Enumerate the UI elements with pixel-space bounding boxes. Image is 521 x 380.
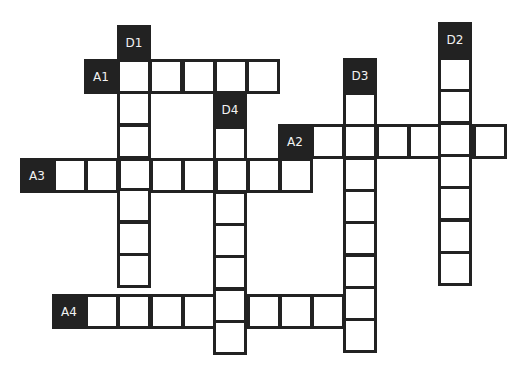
answer-cell-d4-6[interactable] bbox=[213, 288, 247, 323]
answer-cell-d2-2[interactable] bbox=[438, 89, 472, 124]
answer-cell-a1-5[interactable] bbox=[246, 59, 280, 94]
answer-cell-a1-2[interactable] bbox=[149, 59, 183, 94]
clue-label-a3: A3 bbox=[20, 158, 54, 193]
answer-cell-d2-6[interactable] bbox=[438, 219, 472, 254]
answer-cell-d3-3[interactable] bbox=[343, 157, 377, 192]
answer-cell-d3-1[interactable] bbox=[343, 92, 377, 127]
answer-cell-a4-8[interactable] bbox=[311, 294, 345, 329]
answer-cell-d2-1[interactable] bbox=[438, 57, 472, 92]
answer-cell-a4-4[interactable] bbox=[182, 294, 216, 329]
answer-cell-a2-2[interactable] bbox=[343, 124, 377, 159]
answer-cell-a1-1[interactable] bbox=[117, 59, 151, 94]
answer-cell-a1-4[interactable] bbox=[214, 59, 248, 94]
answer-cell-d1-7[interactable] bbox=[117, 253, 151, 288]
answer-cell-a2-4[interactable] bbox=[408, 124, 442, 159]
answer-cell-a2-3[interactable] bbox=[376, 124, 410, 159]
answer-cell-d4-1[interactable] bbox=[213, 126, 247, 161]
answer-cell-d1-3[interactable] bbox=[117, 124, 151, 159]
crossword-grid: D1A1D4D3D2A2A3A4 bbox=[0, 0, 521, 380]
answer-cell-a3-6[interactable] bbox=[215, 158, 249, 193]
answer-cell-a4-2[interactable] bbox=[117, 294, 151, 329]
answer-cell-d3-4[interactable] bbox=[343, 189, 377, 224]
answer-cell-d4-3[interactable] bbox=[213, 191, 247, 226]
clue-label-a2: A2 bbox=[278, 124, 312, 159]
answer-cell-d4-5[interactable] bbox=[213, 255, 247, 290]
answer-cell-d4-4[interactable] bbox=[213, 223, 247, 258]
answer-cell-a4-6[interactable] bbox=[247, 294, 281, 329]
clue-label-a4: A4 bbox=[52, 294, 86, 329]
answer-cell-a4-1[interactable] bbox=[85, 294, 119, 329]
answer-cell-d3-6[interactable] bbox=[343, 254, 377, 289]
answer-cell-a4-7[interactable] bbox=[279, 294, 313, 329]
clue-label-a1: A1 bbox=[84, 59, 118, 94]
answer-cell-a3-5[interactable] bbox=[182, 158, 216, 193]
answer-cell-d1-6[interactable] bbox=[117, 221, 151, 256]
answer-cell-d4-7[interactable] bbox=[213, 320, 247, 355]
clue-label-d2: D2 bbox=[438, 22, 472, 57]
answer-cell-a3-2[interactable] bbox=[85, 158, 119, 193]
answer-cell-a1-3[interactable] bbox=[182, 59, 216, 94]
answer-cell-d2-3[interactable] bbox=[438, 122, 472, 157]
answer-cell-d2-5[interactable] bbox=[438, 186, 472, 221]
answer-cell-d1-5[interactable] bbox=[117, 188, 151, 223]
answer-cell-d1-2[interactable] bbox=[117, 91, 151, 126]
answer-cell-d2-7[interactable] bbox=[438, 251, 472, 286]
answer-cell-a3-1[interactable] bbox=[53, 158, 87, 193]
answer-cell-d3-8[interactable] bbox=[343, 318, 377, 353]
answer-cell-a4-3[interactable] bbox=[150, 294, 184, 329]
clue-label-d3: D3 bbox=[343, 58, 377, 93]
clue-label-d1: D1 bbox=[117, 25, 151, 60]
answer-cell-d3-7[interactable] bbox=[343, 286, 377, 321]
answer-cell-d2-4[interactable] bbox=[438, 154, 472, 189]
answer-cell-a3-4[interactable] bbox=[150, 158, 184, 193]
answer-cell-a2-6[interactable] bbox=[473, 124, 507, 159]
answer-cell-a3-7[interactable] bbox=[247, 158, 281, 193]
answer-cell-a3-8[interactable] bbox=[279, 158, 313, 193]
answer-cell-a2-1[interactable] bbox=[311, 124, 345, 159]
answer-cell-d3-5[interactable] bbox=[343, 221, 377, 256]
clue-label-d4: D4 bbox=[213, 92, 247, 127]
